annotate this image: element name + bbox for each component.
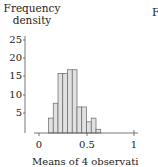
x-tick-0.5: 0.5 <box>75 139 99 150</box>
histogram-bar <box>49 118 54 133</box>
histogram-bar <box>82 107 87 133</box>
histogram-bar <box>96 129 101 133</box>
histogram-bar <box>53 103 58 133</box>
histogram-bar <box>77 107 82 133</box>
right-panel-fragment: F <box>152 6 158 19</box>
x-axis-label: Means of 4 observati <box>32 156 138 167</box>
histogram-bar <box>91 118 96 133</box>
histogram-bar <box>72 70 77 133</box>
histogram-bar <box>63 73 68 133</box>
histogram-bar <box>58 73 63 133</box>
x-tick-0: 0 <box>27 139 51 150</box>
x-tick-1: 1 <box>122 139 146 150</box>
histogram-bar <box>87 122 92 133</box>
histogram-bar <box>68 70 73 133</box>
